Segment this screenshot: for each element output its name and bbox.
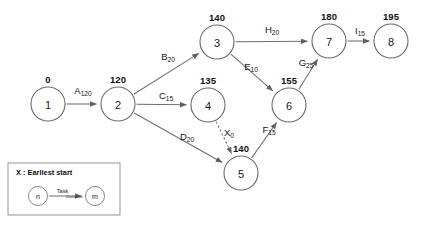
edge-label-a: A120	[74, 85, 92, 97]
edge-label-c: C15	[159, 90, 174, 102]
edge-g: G25	[299, 57, 318, 89]
node-earliest-start-3: 140	[209, 12, 225, 23]
edge-e: E10	[231, 54, 273, 91]
network-diagram: A120B20C15D20X0E10F15G25H20I15 102120314…	[0, 0, 421, 239]
node-earliest-start-8: 195	[383, 11, 400, 22]
node-label-4: 4	[205, 100, 211, 112]
edge-label-h: H20	[265, 24, 280, 36]
node-3[interactable]: 3140	[200, 12, 234, 59]
node-label-1: 1	[45, 99, 51, 111]
legend-node-label-to: m	[92, 193, 98, 200]
legend-node-label-from: n	[36, 193, 40, 200]
edge-c: C15	[136, 90, 186, 105]
node-earliest-start-5: 140	[233, 143, 249, 154]
edge-label-i: I15	[355, 25, 365, 37]
node-label-6: 6	[286, 100, 292, 112]
node-earliest-start-2: 120	[110, 74, 126, 85]
node-earliest-start-6: 155	[281, 75, 298, 86]
node-label-8: 8	[388, 36, 394, 48]
legend-layer: X : Earliest startnmTaskDuration	[8, 163, 120, 215]
edge-label-d: D20	[180, 131, 195, 143]
edge-x: X0	[216, 122, 234, 154]
node-2[interactable]: 2120	[101, 74, 135, 121]
edge-a: A120	[67, 85, 97, 104]
node-label-2: 2	[115, 99, 121, 111]
edge-line-h	[235, 41, 307, 42]
node-earliest-start-1: 0	[45, 74, 50, 85]
edge-b: B20	[134, 51, 199, 94]
node-6[interactable]: 6155	[272, 75, 306, 122]
node-earliest-start-7: 180	[321, 11, 337, 22]
node-label-5: 5	[238, 168, 244, 180]
edge-h: H20	[235, 24, 307, 42]
node-7[interactable]: 7180	[312, 11, 346, 58]
node-5[interactable]: 5140	[224, 143, 258, 190]
edge-f: F15	[252, 123, 277, 158]
node-label-3: 3	[214, 37, 220, 49]
legend-title: X : Earliest start	[16, 168, 73, 177]
network-diagram-canvas: A120B20C15D20X0E10F15G25H20I15 102120314…	[0, 0, 421, 239]
node-earliest-start-4: 135	[200, 75, 217, 86]
edge-i: I15	[348, 25, 370, 41]
edge-label-b: B20	[161, 51, 175, 63]
legend-duration-label: Duration	[66, 194, 83, 199]
edge-label-g: G25	[299, 57, 314, 69]
node-8[interactable]: 8195	[374, 11, 408, 58]
node-label-7: 7	[326, 36, 332, 48]
edge-line-c	[136, 104, 186, 105]
edge-label-x: X0	[224, 127, 234, 139]
legend: X : Earliest startnmTaskDuration	[8, 163, 120, 215]
edge-label-e: E10	[244, 61, 258, 73]
node-1[interactable]: 10	[31, 74, 65, 121]
node-4[interactable]: 4135	[191, 75, 225, 122]
